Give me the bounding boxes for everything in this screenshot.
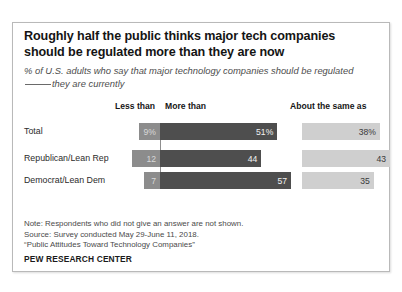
source-line: Source: Survey conducted May 29-June 11,… bbox=[24, 230, 372, 241]
bar-value-more-than: 57 bbox=[278, 176, 288, 185]
chart-row: Democrat/Lean Dem 7 57 35 bbox=[13, 172, 391, 189]
chart-row: Republican/Lean Rep 12 44 43 bbox=[13, 150, 391, 167]
chart-title: Roughly half the public thinks major tec… bbox=[24, 29, 376, 60]
bar-segment-more-than: 51% bbox=[160, 123, 277, 140]
bar-segment-less-than: 9% bbox=[139, 123, 160, 140]
pew-research-center-brand: PEW RESEARCH CENTER bbox=[24, 254, 132, 264]
bar-segment-about-the-same-as: 43 bbox=[302, 150, 390, 167]
subtitle-blank-underline bbox=[25, 84, 51, 85]
bar-value-about-the-same-as: 35 bbox=[360, 176, 370, 185]
column-header-about-the-same-as: About the same as bbox=[290, 101, 366, 111]
bar-segment-less-than: 12 bbox=[132, 150, 160, 167]
subtitle-text-part2: they are currently bbox=[52, 78, 124, 89]
bar-value-less-than: 12 bbox=[146, 154, 156, 163]
column-header-less-than: Less than bbox=[115, 101, 155, 111]
bar-segment-more-than: 57 bbox=[160, 172, 291, 189]
bar-value-more-than: 51% bbox=[256, 127, 273, 136]
chart-card: Roughly half the public thinks major tec… bbox=[12, 22, 390, 272]
bar-value-less-than: 7 bbox=[151, 176, 156, 185]
bar-value-more-than: 44 bbox=[248, 154, 258, 163]
bar-value-about-the-same-as: 38% bbox=[359, 127, 376, 136]
bar-segment-about-the-same-as: 38% bbox=[302, 123, 380, 140]
chart-subtitle: % of U.S. adults who say that major tech… bbox=[24, 65, 354, 90]
chart-notes: Note: Respondents who did not give an an… bbox=[24, 219, 372, 251]
subtitle-text-part1: % of U.S. adults who say that major tech… bbox=[24, 65, 353, 76]
row-label: Total bbox=[24, 126, 43, 136]
bar-value-less-than: 9% bbox=[144, 127, 156, 136]
row-label: Republican/Lean Rep bbox=[24, 153, 109, 163]
column-header-more-than: More than bbox=[165, 101, 206, 111]
note-line: Note: Respondents who did not give an an… bbox=[24, 219, 372, 230]
chart-plot-area: Less than More than About the same as To… bbox=[13, 101, 391, 219]
report-title-line: “Public Attitudes Toward Technology Comp… bbox=[24, 240, 372, 251]
chart-row: Total 9% 51% 38% bbox=[13, 123, 391, 140]
row-label: Democrat/Lean Dem bbox=[24, 175, 105, 185]
bar-segment-less-than: 7 bbox=[144, 172, 160, 189]
bar-value-about-the-same-as: 43 bbox=[377, 154, 387, 163]
bar-segment-about-the-same-as: 35 bbox=[302, 172, 374, 189]
bar-segment-more-than: 44 bbox=[160, 150, 261, 167]
